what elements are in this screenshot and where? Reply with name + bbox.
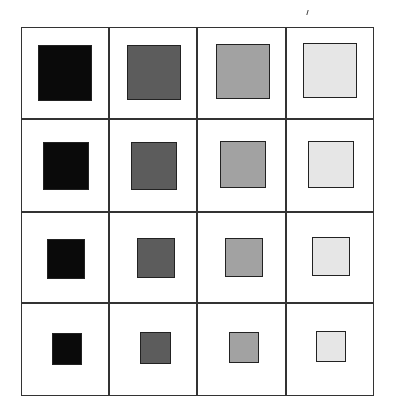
stray-tick-mark [306, 10, 308, 15]
gray-square-r1-c3 [216, 44, 270, 99]
gray-square-r2-c1 [43, 142, 89, 190]
gray-square-r2-c3 [220, 141, 266, 188]
grid-row-divider [22, 302, 373, 304]
grid-row-divider [22, 118, 373, 120]
gray-square-r4-c3 [229, 332, 259, 363]
gray-square-r3-c2 [137, 238, 175, 278]
grid-row-divider [22, 211, 373, 213]
gray-square-r4-c2 [140, 332, 171, 364]
gray-square-r2-c4 [308, 141, 354, 188]
gray-square-r1-c2 [127, 45, 181, 100]
gray-square-r3-c3 [225, 238, 263, 277]
gray-square-r1-c1 [38, 45, 92, 101]
gray-square-r4-c1 [52, 333, 82, 365]
gray-square-r3-c4 [312, 237, 350, 276]
gray-square-r3-c1 [47, 239, 85, 279]
gray-square-r4-c4 [316, 331, 346, 362]
gray-square-r1-c4 [303, 43, 357, 98]
gray-square-r2-c2 [131, 142, 177, 190]
